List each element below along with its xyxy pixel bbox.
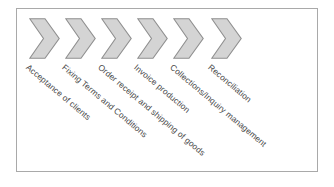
- diagram-canvas: Acceptance of clientsFixing Terms and Co…: [0, 0, 334, 187]
- step-labels-layer: Acceptance of clientsFixing Terms and Co…: [0, 0, 334, 187]
- step-label-1: Acceptance of clients: [25, 63, 93, 122]
